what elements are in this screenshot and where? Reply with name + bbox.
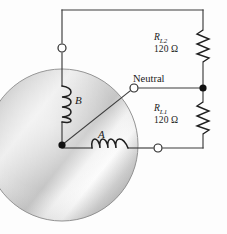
circuit-diagram: RL2 120 Ω RL1 120 Ω Neutral B A: [0, 0, 227, 234]
neutral-label: Neutral: [133, 73, 165, 84]
junction-right-rail: [199, 84, 206, 91]
resistor-RL1: [197, 102, 209, 134]
circuit-svg: [0, 0, 227, 234]
resistor-RL2: [197, 30, 209, 62]
coil-B-label: B: [75, 95, 82, 107]
coil-A-label: A: [98, 129, 105, 141]
resistor-RL2-value: 120 Ω: [154, 45, 178, 55]
terminal-line1[interactable]: [154, 144, 162, 152]
resistor-RL1-label: RL1 120 Ω: [154, 104, 178, 126]
transformer-core: [0, 69, 138, 221]
terminal-line2[interactable]: [58, 44, 66, 52]
resistor-RL1-value: 120 Ω: [154, 116, 178, 126]
terminal-neutral[interactable]: [130, 84, 138, 92]
junction-center: [58, 141, 65, 148]
resistor-RL2-label: RL2 120 Ω: [154, 33, 178, 55]
